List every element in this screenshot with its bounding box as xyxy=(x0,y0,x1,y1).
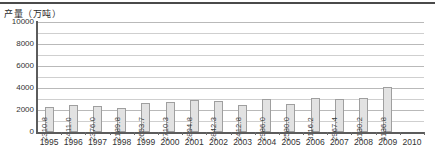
x-axis-tickmark xyxy=(351,132,352,135)
x-axis-tickmark xyxy=(279,132,280,135)
x-axis-tickmark xyxy=(206,132,207,135)
x-axis-tick-label: 2005 xyxy=(282,137,301,147)
gridline xyxy=(37,22,424,23)
x-axis-tickmark xyxy=(61,132,62,135)
gridline xyxy=(37,55,424,56)
x-axis-tickmark xyxy=(255,132,256,135)
x-axis-tick-label: 2008 xyxy=(354,137,373,147)
x-axis-tickmark xyxy=(424,132,425,135)
x-axis-tick-label: 2000 xyxy=(161,137,180,147)
x-axis-tick-label: 1996 xyxy=(64,137,83,147)
x-axis-tick-label: 2009 xyxy=(378,137,397,147)
gridline xyxy=(37,77,424,78)
x-axis-tickmark xyxy=(231,132,232,135)
gridline xyxy=(37,33,424,34)
chart-figure: 产量（万吨） 2310.82411.02376.02189.82653.7271… xyxy=(0,0,435,158)
x-axis-tick-label: 1999 xyxy=(136,137,155,147)
x-axis-tick-label: 1998 xyxy=(112,137,131,147)
x-axis-tick-label: 2001 xyxy=(185,137,204,147)
y-axis-tick-label: 2000 xyxy=(2,105,34,114)
x-axis-tickmark xyxy=(303,132,304,135)
y-axis-tick-label: 8000 xyxy=(2,39,34,48)
x-axis-tickmark xyxy=(182,132,183,135)
x-axis-tickmark xyxy=(110,132,111,135)
x-axis-tickmark xyxy=(327,132,328,135)
x-axis-tick-label: 2002 xyxy=(209,137,228,147)
y-axis-tick-labels: 0200040006000800010000 xyxy=(0,22,34,132)
top-divider-rule xyxy=(0,2,435,4)
x-axis-tick-label: 1997 xyxy=(88,137,107,147)
y-axis-tick-label: 10000 xyxy=(2,17,34,26)
x-axis-tick-label: 2010 xyxy=(402,137,421,147)
plot-area: 2310.82411.02376.02189.82653.72710.32894… xyxy=(37,22,424,132)
x-axis-tick-label: 1995 xyxy=(40,137,59,147)
y-axis-line xyxy=(36,21,38,133)
x-axis-tick-label: 2006 xyxy=(306,137,325,147)
x-axis-tickmark xyxy=(376,132,377,135)
x-axis-tick-label: 2004 xyxy=(257,137,276,147)
x-axis-tickmark xyxy=(158,132,159,135)
x-axis-tick-label: 2003 xyxy=(233,137,252,147)
y-axis-tick-label: 6000 xyxy=(2,61,34,70)
y-axis-tick-label: 4000 xyxy=(2,83,34,92)
x-axis-tickmark xyxy=(85,132,86,135)
y-axis-tick-label: 0 xyxy=(2,127,34,136)
gridline xyxy=(37,66,424,67)
x-axis-tickmark xyxy=(134,132,135,135)
x-axis-tick-label: 2007 xyxy=(330,137,349,147)
x-axis-tickmark xyxy=(400,132,401,135)
gridline xyxy=(37,44,424,45)
gridline xyxy=(37,88,424,89)
